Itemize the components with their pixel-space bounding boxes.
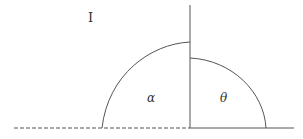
theta-label: θ: [220, 91, 227, 105]
left-arc: [102, 42, 190, 128]
region-label: I: [88, 10, 93, 25]
alpha-label: α: [147, 91, 155, 105]
diagram-canvas: [0, 0, 303, 139]
right-arc: [190, 58, 266, 128]
